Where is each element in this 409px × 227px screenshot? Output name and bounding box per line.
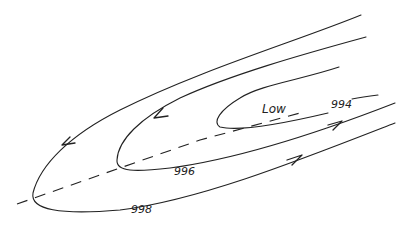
arrow-left-outer-icon (62, 137, 75, 145)
isobar-label-996: 996 (174, 165, 195, 178)
arrow-left-inner-icon (154, 108, 168, 118)
isobar-diagram: Low 994 996 998 (0, 0, 409, 227)
isobar-label-994: 994 (331, 98, 352, 111)
isobar-label-998: 998 (131, 203, 152, 216)
isobar-994-right (352, 95, 378, 99)
isobar-996 (117, 37, 395, 170)
low-label: Low (262, 102, 286, 116)
